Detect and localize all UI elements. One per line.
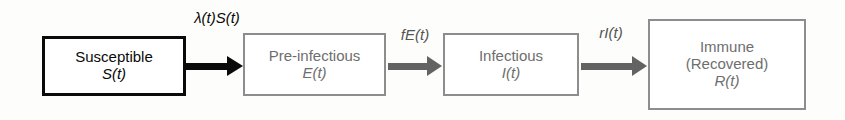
flow-label-infection: λ(t)S(t) (176, 9, 258, 26)
compartment-infectious-title: Infectious (479, 48, 543, 65)
compartment-immune-recovered: Immune (Recovered) R(t) (648, 19, 806, 110)
compartment-immune-recovered-subtitle: (Recovered) (686, 56, 769, 73)
compartment-infectious: Infectious I(t) (443, 33, 579, 96)
flow-arrow-infection (186, 56, 243, 76)
seir-compartment-diagram: Susceptible S(t) λ(t)S(t) Pre-infectious… (0, 0, 845, 120)
arrow-shaft (186, 63, 227, 70)
compartment-pre-infectious-variable: E(t) (302, 65, 326, 82)
compartment-susceptible-variable: S(t) (102, 66, 126, 83)
compartment-pre-infectious: Pre-infectious E(t) (243, 33, 386, 96)
arrow-shaft (581, 63, 632, 70)
compartment-susceptible: Susceptible S(t) (42, 36, 186, 96)
arrow-head (227, 56, 243, 76)
compartment-immune-recovered-title: Immune (700, 39, 754, 56)
flow-arrow-recovery (581, 56, 647, 76)
compartment-pre-infectious-title: Pre-infectious (269, 48, 361, 65)
arrow-head (632, 56, 647, 76)
arrow-shaft (388, 63, 427, 70)
flow-label-onset-of-infectiousness: fE(t) (386, 26, 444, 43)
flow-arrow-onset-of-infectiousness (388, 56, 442, 76)
compartment-susceptible-title: Susceptible (75, 49, 153, 66)
compartment-infectious-variable: I(t) (502, 65, 520, 82)
flow-label-recovery: rI(t) (582, 24, 640, 41)
arrow-head (427, 56, 442, 76)
compartment-immune-recovered-variable: R(t) (715, 73, 740, 90)
